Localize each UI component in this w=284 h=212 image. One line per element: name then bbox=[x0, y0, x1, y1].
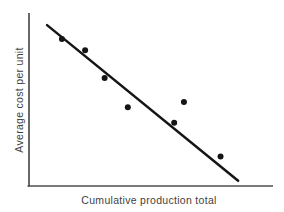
learning-curve-figure: Average cost per unit Cumulative product… bbox=[0, 0, 284, 212]
data-point bbox=[125, 104, 131, 110]
y-axis-label: Average cost per unit bbox=[12, 30, 26, 170]
scatter-plot bbox=[0, 0, 284, 212]
trend-line bbox=[47, 25, 238, 181]
data-point bbox=[171, 120, 177, 126]
data-point bbox=[59, 36, 65, 42]
data-point bbox=[102, 75, 108, 81]
x-axis-label: Cumulative production total bbox=[49, 193, 249, 207]
data-point bbox=[181, 99, 187, 105]
data-point bbox=[82, 47, 88, 53]
data-point bbox=[218, 154, 224, 160]
